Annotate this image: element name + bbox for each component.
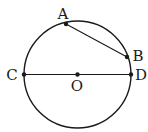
geometry-diagram: A B C D O — [0, 0, 148, 132]
point-d-dot — [129, 72, 133, 76]
label-a: A — [57, 5, 69, 23]
label-o: O — [71, 77, 83, 95]
chord-ab — [66, 24, 127, 57]
label-d: D — [135, 66, 147, 84]
label-c: C — [6, 66, 17, 84]
point-b-dot — [125, 55, 129, 59]
point-c-dot — [22, 72, 26, 76]
label-b: B — [132, 47, 143, 65]
